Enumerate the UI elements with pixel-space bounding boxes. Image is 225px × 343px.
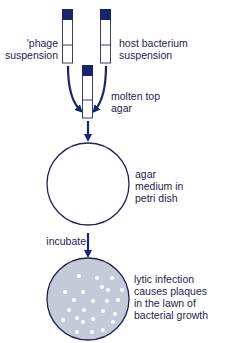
phage-label-line-1: 'phage [5,37,58,49]
lytic-infection-label: lytic infection causes plaques in the la… [134,273,208,321]
empty-petri-dish-icon [47,143,129,225]
phage-suspension-label: 'phage suspension [5,37,58,61]
molten-top-agar-label: molten top agar [111,90,160,114]
host-bacterium-tube-icon [100,9,111,63]
host-label-line-1: host bacterium [119,37,188,49]
phage-tube-icon [62,9,73,63]
lytic-line-2: causes plaques [134,285,208,297]
agar-medium-line-1: agar [135,168,183,180]
lytic-line-3: in the lawn of [134,297,208,309]
agar-medium-line-2: medium in [135,180,183,192]
top-agar-tube-icon [82,65,93,118]
phage-label-line-2: suspension [5,49,58,61]
top-agar-label-line-1: molten top [111,90,160,102]
top-agar-label-line-2: agar [111,102,160,114]
host-label-line-2: suspension [119,49,188,61]
incubate-text: incubate [46,235,86,247]
plaque-petri-dish-icon [47,258,129,340]
host-bacterium-label: host bacterium suspension [119,37,188,61]
pour-phage-arrow-icon [68,66,80,110]
pour-host-arrow-icon [95,66,106,110]
incubate-label: incubate [46,235,86,247]
lytic-line-4: bacterial growth [134,309,208,321]
agar-medium-label: agar medium in petri dish [135,168,183,204]
agar-medium-line-3: petri dish [135,192,183,204]
plaque-assay-diagram: 'phage suspension host bacterium suspens… [0,0,225,343]
lytic-line-1: lytic infection [134,273,208,285]
